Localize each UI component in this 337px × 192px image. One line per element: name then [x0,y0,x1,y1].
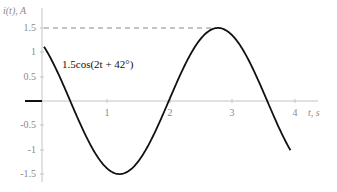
x-tick-label: 1 [105,107,110,118]
y-tick-label: -0.5 [20,119,36,130]
x-tick-label: 2 [168,107,173,118]
x-axis-title: t, s [308,107,320,118]
y-tick-label: -1 [28,144,36,155]
y-tick-label: 1.5 [24,22,37,33]
y-tick-label: 1 [31,46,36,57]
y-axis-title: i(t), A [3,5,27,17]
chart-canvas: 1.5 1 0.5 -0.5 -1 -1.5 1 2 3 4 i(t), A t… [0,0,337,192]
x-tick-label: 3 [230,107,235,118]
y-tick-label: -1.5 [20,168,36,179]
x-tick-label: 4 [293,107,298,118]
curve-label: 1.5cos(2t + 42°) [62,58,134,71]
y-tick-label: 0.5 [24,71,37,82]
